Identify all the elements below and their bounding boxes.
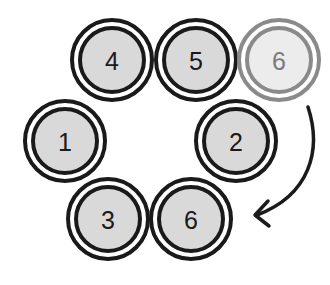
circle-ring-diagram: 4 5 6 1 2 3 6 (0, 0, 330, 285)
circle-2: 2 (196, 101, 276, 181)
circle-5: 5 (156, 20, 236, 100)
circle-1-label: 1 (58, 128, 72, 156)
circle-3: 3 (68, 179, 148, 259)
circle-3-label: 3 (101, 206, 115, 234)
circle-5-label: 5 (189, 47, 203, 75)
circle-6: 6 (151, 179, 231, 259)
circle-6-faded-label: 6 (272, 47, 286, 75)
circle-6-label: 6 (184, 206, 198, 234)
circle-1: 1 (25, 101, 105, 181)
circle-4: 4 (72, 20, 152, 100)
circle-2-label: 2 (229, 128, 243, 156)
circle-4-label: 4 (105, 47, 119, 75)
circle-6-faded: 6 (239, 20, 319, 100)
